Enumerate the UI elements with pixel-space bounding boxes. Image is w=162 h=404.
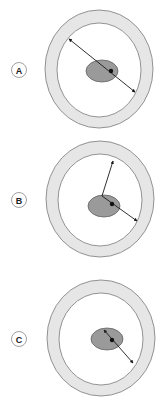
cell-diagram: A B C	[0, 0, 162, 404]
centroid-dot-c	[110, 338, 114, 342]
centroid-dot-b	[110, 202, 114, 206]
nucleus-b	[88, 195, 120, 217]
centroid-dot-a	[109, 69, 113, 73]
panel-b: B	[12, 141, 155, 257]
label-b: B	[16, 196, 23, 206]
panel-c: C	[12, 280, 156, 396]
panel-a: A	[12, 10, 154, 128]
label-a: A	[16, 66, 23, 76]
label-c: C	[16, 335, 23, 345]
